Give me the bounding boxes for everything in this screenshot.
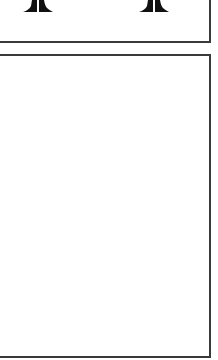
top-panel — [0, 0, 211, 43]
column-base-icon — [137, 0, 171, 14]
main-panel — [0, 54, 211, 358]
column-base-icon — [21, 0, 55, 14]
